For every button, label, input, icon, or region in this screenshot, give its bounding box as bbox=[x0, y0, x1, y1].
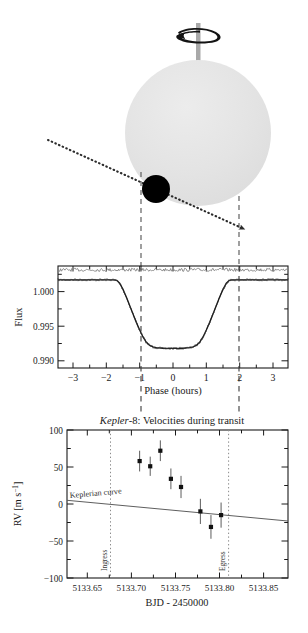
flux-data-point bbox=[138, 329, 139, 330]
flux-xtick-label-0: −3 bbox=[68, 372, 79, 383]
flux-data-point bbox=[98, 280, 99, 281]
flux-data-point bbox=[136, 323, 137, 324]
flux-data-point bbox=[250, 280, 251, 281]
flux-data-point bbox=[137, 326, 138, 327]
flux-data-point bbox=[180, 348, 181, 349]
flux-data-point bbox=[212, 313, 213, 314]
flux-data-point bbox=[266, 280, 267, 281]
flux-data-point bbox=[135, 321, 136, 322]
flux-data-point bbox=[227, 282, 228, 283]
flux-data-point bbox=[78, 280, 79, 281]
flux-data-point bbox=[224, 286, 225, 287]
flux-data-point bbox=[57, 278, 58, 279]
rv-data-point bbox=[219, 513, 223, 517]
flux-data-point bbox=[122, 289, 123, 290]
flux-data-point bbox=[167, 348, 168, 349]
flux-data-point bbox=[141, 333, 142, 334]
flux-data-point bbox=[202, 337, 203, 338]
flux-data-point bbox=[189, 346, 190, 347]
flux-x-ticks bbox=[73, 266, 273, 368]
flux-data-point bbox=[60, 279, 61, 280]
flux-data-point bbox=[142, 336, 143, 337]
rv-data-point bbox=[158, 449, 162, 453]
flux-data-point bbox=[217, 301, 218, 302]
flux-data-point bbox=[151, 345, 152, 346]
flux-xtick-label-4: 1 bbox=[204, 372, 209, 383]
flux-data-point bbox=[79, 278, 80, 279]
flux-plot-frame bbox=[58, 266, 288, 368]
flux-data-point bbox=[168, 347, 169, 348]
flux-data-point bbox=[178, 349, 179, 350]
flux-data-point bbox=[171, 348, 172, 349]
rv-data-point bbox=[198, 509, 202, 513]
flux-data-point bbox=[210, 318, 211, 319]
flux-data-point bbox=[110, 280, 111, 281]
flux-data-point bbox=[131, 311, 132, 312]
flux-data-point bbox=[117, 281, 118, 282]
flux-data-point bbox=[215, 305, 216, 306]
flux-data-point bbox=[261, 280, 262, 281]
rv-title-italic-part: Kepler bbox=[99, 415, 130, 426]
flux-data-point bbox=[196, 345, 197, 346]
flux-data-point bbox=[118, 282, 119, 283]
flux-data-point bbox=[213, 312, 214, 313]
flux-data-point bbox=[287, 278, 288, 279]
flux-data-point bbox=[223, 288, 224, 289]
flux-data-point bbox=[221, 291, 222, 292]
flux-data-point bbox=[119, 283, 120, 284]
flux-data-point bbox=[149, 345, 150, 346]
flux-data-point bbox=[157, 348, 158, 349]
transit-geometry-diagram bbox=[48, 23, 271, 268]
flux-data-point bbox=[199, 342, 200, 343]
flux-xtick-label-5: 2 bbox=[237, 372, 242, 383]
flux-data-point bbox=[127, 301, 128, 302]
flux-data-point bbox=[205, 331, 206, 332]
flux-data-point bbox=[104, 279, 105, 280]
flux-data-point bbox=[124, 294, 125, 295]
flux-data-point bbox=[121, 288, 122, 289]
flux-y-axis-label: Flux bbox=[13, 307, 24, 327]
flux-data-point bbox=[69, 280, 70, 281]
flux-data-point bbox=[88, 279, 89, 280]
flux-data-point bbox=[195, 344, 196, 345]
flux-data-point bbox=[181, 347, 182, 348]
flux-data-point bbox=[284, 280, 285, 281]
flux-data-point bbox=[249, 279, 250, 280]
rv-x-ticks bbox=[87, 430, 263, 578]
rv-data-points bbox=[138, 440, 224, 538]
rv-y-axis-label-main: RV [m s bbox=[12, 493, 23, 527]
flux-data-point bbox=[245, 280, 246, 281]
flux-data-point bbox=[272, 278, 273, 279]
flux-data-point bbox=[211, 315, 212, 316]
flux-xtick-label-1: −2 bbox=[101, 372, 112, 383]
flux-data-point bbox=[172, 349, 173, 350]
rv-data-point bbox=[209, 525, 213, 529]
rv-egress-label: Egress bbox=[218, 551, 227, 571]
flux-data-point bbox=[219, 296, 220, 297]
flux-data-point bbox=[209, 322, 210, 323]
rv-ytick-label-3: −50 bbox=[48, 537, 63, 547]
flux-data-point bbox=[146, 342, 147, 343]
rv-data-point bbox=[148, 464, 152, 468]
flux-data-point bbox=[206, 328, 207, 329]
flux-data-point bbox=[214, 308, 215, 309]
rv-keplerian-curve-label: Keplerian curve bbox=[69, 486, 122, 500]
flux-data-point bbox=[203, 335, 204, 336]
rv-ingress-label: Ingress bbox=[100, 550, 109, 571]
flux-ytick-label-0: 1.000 bbox=[33, 287, 54, 297]
rv-ytick-label-0: 100 bbox=[49, 426, 63, 436]
rv-ytick-label-2: 0 bbox=[58, 500, 63, 510]
flux-data-point bbox=[277, 279, 278, 280]
flux-data-point bbox=[175, 347, 176, 348]
flux-data-point bbox=[63, 279, 64, 280]
flux-data-point bbox=[173, 347, 174, 348]
flux-data-point bbox=[262, 278, 263, 279]
flux-data-point bbox=[129, 307, 130, 308]
flux-data-point bbox=[120, 285, 121, 286]
flux-data-point bbox=[132, 313, 133, 314]
rv-data-point bbox=[179, 485, 183, 489]
flux-xtick-label-6: 3 bbox=[271, 372, 276, 383]
flux-xtick-label-2: −1 bbox=[134, 372, 145, 383]
flux-data-point bbox=[255, 278, 256, 279]
flux-data-point bbox=[252, 279, 253, 280]
